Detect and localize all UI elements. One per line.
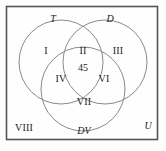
- region-label-6: VI: [99, 74, 110, 84]
- set-label-d: D: [106, 14, 113, 24]
- region-label-7: VII: [77, 97, 91, 107]
- universal-set-label: U: [144, 121, 151, 131]
- region-label-3: III: [113, 46, 124, 56]
- set-label-t: T: [50, 14, 56, 24]
- region-label-8: VIII: [15, 123, 33, 133]
- region-label-center-count: 45: [78, 63, 88, 73]
- region-label-4: IV: [56, 74, 67, 84]
- region-label-1: I: [44, 46, 48, 56]
- venn-diagram: T D DV U I II III IV 45 VI VII VIII: [0, 0, 166, 151]
- region-label-2: II: [79, 46, 86, 56]
- set-label-dv: DV: [77, 126, 90, 136]
